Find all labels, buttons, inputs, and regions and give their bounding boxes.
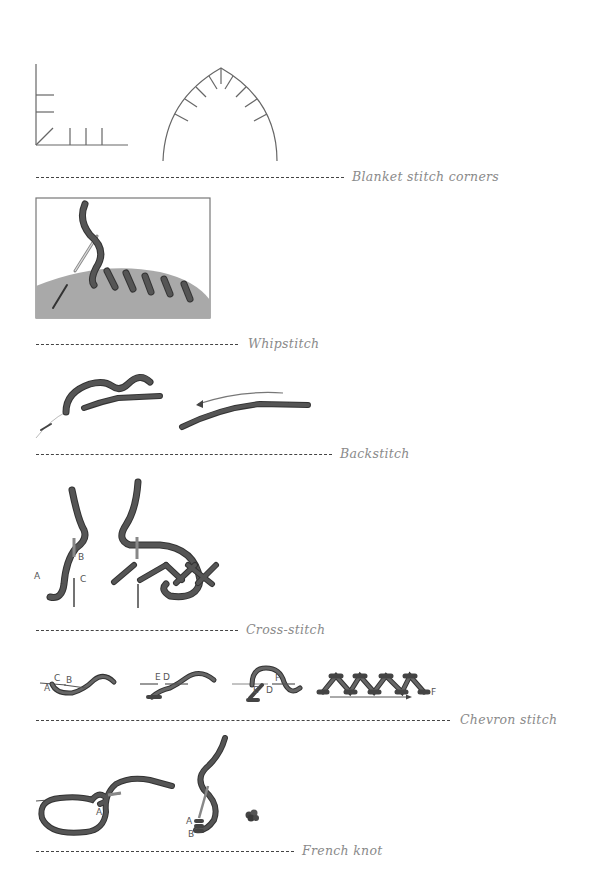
point-label-b: B [188, 829, 194, 839]
section-divider [36, 851, 294, 852]
point-label-a: A [186, 816, 193, 826]
french-knot-diagram: A A B [0, 0, 593, 860]
point-label-a: A [96, 807, 103, 817]
section-label-french-knot: French knot [302, 844, 383, 858]
